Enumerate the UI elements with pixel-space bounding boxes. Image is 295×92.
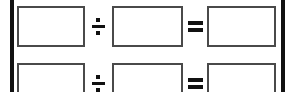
quotient-input[interactable] — [207, 63, 276, 92]
divisor-input[interactable] — [112, 6, 183, 47]
divide-glyph — [92, 75, 105, 92]
dividend-input[interactable] — [17, 63, 85, 92]
divide-icon — [85, 75, 112, 92]
equation-row — [17, 63, 276, 92]
equals-icon — [183, 20, 207, 33]
quotient-input[interactable] — [207, 6, 276, 47]
equation-row — [17, 6, 276, 47]
left-vertical-rule — [10, 0, 14, 92]
dividend-input[interactable] — [17, 6, 85, 47]
divisor-input[interactable] — [112, 63, 183, 92]
divide-icon — [85, 18, 112, 35]
equals-icon — [183, 77, 207, 90]
right-vertical-rule — [281, 0, 285, 92]
divide-glyph — [92, 18, 105, 35]
equals-glyph — [188, 77, 203, 90]
equals-glyph — [188, 20, 203, 33]
worksheet-fragment — [0, 0, 295, 92]
